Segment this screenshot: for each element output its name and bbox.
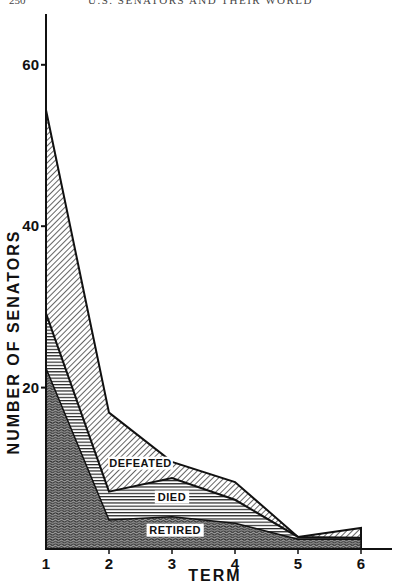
- x-tick-label: 3: [168, 555, 176, 572]
- x-axis-title: TERM: [188, 567, 241, 583]
- svg-text:RETIRED: RETIRED: [149, 524, 201, 536]
- x-tick-label: 1: [42, 555, 50, 572]
- y-tick-label: 40: [22, 217, 39, 234]
- svg-text:DIED: DIED: [158, 491, 186, 503]
- x-tick-label: 2: [105, 555, 113, 572]
- y-axis-ticks: 204060: [22, 56, 46, 396]
- area-label-retired: RETIRED: [147, 524, 204, 537]
- area-label-died: DIED: [155, 491, 189, 504]
- y-tick-label: 20: [22, 379, 39, 396]
- stacked-area-chart: 204060 123456 DEFEATEDDIEDRETIRED TERM N…: [0, 0, 397, 583]
- y-axis-title: NUMBER OF SENATORS: [5, 230, 22, 455]
- chart-areas: [46, 110, 361, 549]
- x-tick-label: 5: [294, 555, 302, 572]
- svg-text:DEFEATED: DEFEATED: [109, 457, 171, 469]
- y-tick-label: 60: [22, 56, 39, 73]
- area-label-defeated: DEFEATED: [108, 457, 173, 470]
- x-tick-label: 6: [357, 555, 365, 572]
